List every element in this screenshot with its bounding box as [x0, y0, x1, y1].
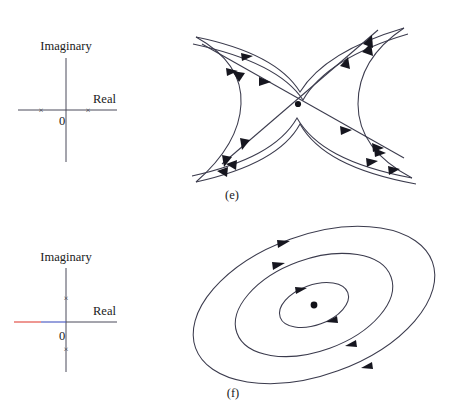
- real-axis-label-f: Real: [93, 304, 116, 318]
- eigen-plot-f: Imaginary Real 0 × ×: [14, 250, 117, 372]
- real-axis-label-e: Real: [93, 92, 116, 106]
- eigenvalue-marker-e-2: ×: [85, 105, 90, 115]
- phase-portrait-f: (f): [172, 196, 457, 409]
- origin-label-f: 0: [59, 329, 65, 343]
- eigen-plot-e: Imaginary Real 0 × ×: [18, 39, 117, 162]
- origin-label-e: 0: [59, 114, 65, 128]
- equilibrium-point-f: [311, 302, 318, 309]
- flow-arrow-f-4: [326, 316, 338, 323]
- flow-arrow-e-3: [259, 77, 271, 86]
- imaginary-axis-label-f: Imaginary: [40, 250, 92, 264]
- flow-arrow-f-6: [361, 362, 373, 369]
- panel-label-e: (e): [225, 188, 239, 202]
- figure-canvas: Imaginary Real 0 × ×: [0, 0, 457, 409]
- stable-asymptote-e: [202, 44, 404, 158]
- eigenvalue-marker-f-1: ×: [63, 293, 68, 303]
- hyperbola-left-branch-e: [196, 37, 241, 182]
- flow-arrow-e-4: [232, 71, 245, 82]
- flow-arrow-e-13: [240, 138, 250, 150]
- figure-root: Imaginary Real 0 × ×: [0, 0, 457, 409]
- phase-portrait-e: (e): [192, 28, 416, 202]
- flow-arrow-e-10: [366, 158, 378, 167]
- eigenvalue-marker-e-1: ×: [38, 105, 43, 115]
- eigenvalue-marker-f-2: ×: [63, 344, 68, 354]
- hyperbola-upper-inner-e: [196, 28, 404, 92]
- panel-label-f: (f): [227, 386, 240, 400]
- flow-arrow-f-3: [277, 240, 290, 248]
- equilibrium-point-e: [295, 101, 301, 107]
- flow-arrow-f-1: [295, 287, 307, 294]
- imaginary-axis-label-e: Imaginary: [40, 39, 92, 53]
